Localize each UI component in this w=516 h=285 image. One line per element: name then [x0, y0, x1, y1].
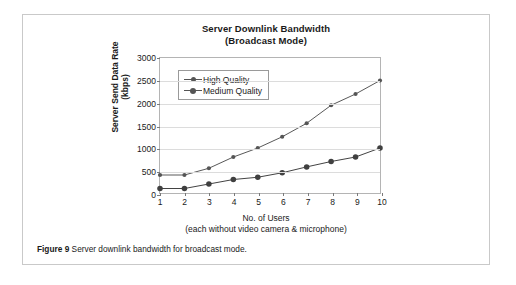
x-tick-mark	[209, 193, 210, 196]
legend-label-medium-quality: Medium Quality	[203, 86, 262, 96]
data-point	[353, 92, 357, 96]
x-tick-label: 2	[182, 197, 187, 207]
data-point	[255, 174, 261, 180]
figure-caption: Figure 9 Server downlink bandwidth for b…	[37, 243, 467, 255]
legend-item-medium-quality: Medium Quality	[183, 85, 262, 96]
y-tick-label: 2000	[137, 99, 156, 109]
x-tick-label: 8	[330, 197, 335, 207]
x-tick-label: 9	[355, 197, 360, 207]
gridline	[160, 104, 380, 105]
data-point	[328, 159, 334, 165]
y-tick-mark	[157, 81, 160, 82]
data-point	[207, 166, 211, 170]
x-tick-mark	[160, 193, 161, 196]
chart-title: Server Downlink Bandwidth (Broadcast Mod…	[101, 23, 431, 46]
x-tick-mark	[185, 193, 186, 196]
data-point	[304, 164, 310, 170]
gridline	[160, 149, 380, 150]
y-tick-mark	[157, 127, 160, 128]
data-point	[182, 186, 188, 192]
x-tick-label: 4	[232, 197, 237, 207]
x-tick-mark	[259, 193, 260, 196]
x-tick-label: 3	[207, 197, 212, 207]
y-tick-label: 1000	[137, 144, 156, 154]
data-point	[158, 173, 162, 177]
data-point	[231, 155, 235, 159]
y-tick-mark	[157, 58, 160, 59]
x-tick-label: 5	[256, 197, 261, 207]
legend-item-high-quality: High Quality	[183, 74, 262, 85]
y-tick-label: 1500	[137, 122, 156, 132]
y-tick-label: 3000	[137, 53, 156, 63]
gridline	[160, 172, 380, 173]
legend-marker-high-quality-icon	[183, 74, 203, 85]
y-axis-title-main: Server Send Data Rate	[110, 27, 120, 147]
y-tick-label: 500	[142, 167, 156, 177]
x-tick-label: 10	[377, 197, 386, 207]
x-axis-title: No. of Users	[131, 213, 401, 224]
x-tick-mark	[308, 193, 309, 196]
data-point	[280, 135, 284, 139]
data-point	[305, 121, 309, 125]
gridline	[160, 81, 380, 82]
gridline	[160, 127, 380, 128]
series-line-2	[160, 148, 380, 189]
y-tick-mark	[157, 149, 160, 150]
x-tick-mark	[234, 193, 235, 196]
figure-frame: Server Downlink Bandwidth (Broadcast Mod…	[22, 14, 490, 265]
plot-area: High Quality Medium Quality 050010001500…	[159, 57, 381, 194]
y-tick-label: 0	[151, 190, 156, 200]
chart-title-main: Server Downlink Bandwidth	[101, 23, 431, 35]
y-tick-label: 2500	[137, 76, 156, 86]
data-point	[231, 177, 237, 183]
legend-label-high-quality: High Quality	[203, 75, 249, 85]
y-tick-mark	[157, 172, 160, 173]
x-tick-mark	[382, 193, 383, 196]
chart-legend: High Quality Medium Quality	[178, 70, 269, 100]
y-axis-title-units: (kbps)	[120, 27, 130, 147]
data-point	[182, 173, 186, 177]
x-tick-label: 1	[158, 197, 163, 207]
x-tick-mark	[357, 193, 358, 196]
x-tick-label: 7	[306, 197, 311, 207]
y-tick-mark	[157, 104, 160, 105]
data-point	[206, 181, 212, 187]
y-axis-title: Server Send Data Rate (kbps)	[110, 27, 130, 147]
x-axis-subtitle: (each without video camera & microphone)	[111, 224, 421, 235]
chart-title-subtitle: (Broadcast Mode)	[101, 35, 431, 47]
data-point	[353, 154, 359, 160]
figure-caption-text: Server downlink bandwidth for broadcast …	[72, 244, 247, 254]
legend-marker-medium-quality-icon	[183, 85, 203, 96]
data-point	[157, 186, 163, 192]
x-tick-mark	[283, 193, 284, 196]
x-tick-label: 6	[281, 197, 286, 207]
chart-figure: Server Downlink Bandwidth (Broadcast Mod…	[101, 17, 431, 239]
x-tick-mark	[333, 193, 334, 196]
figure-caption-label: Figure 9	[37, 244, 69, 254]
